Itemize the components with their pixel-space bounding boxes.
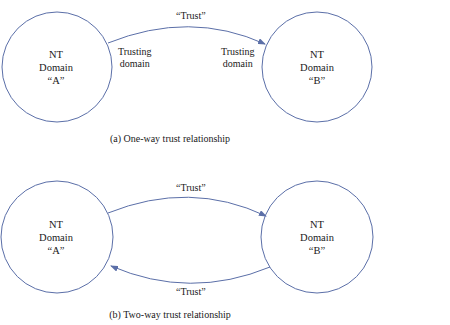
trust-arrow-a-to-b-top [108, 27, 265, 44]
caption-a: (a) One-way trust relationship [0, 133, 395, 144]
caption-b: (b) Two-way trust relationship [0, 309, 395, 320]
edge-label-trust-lower: “Trust” [176, 286, 206, 298]
node-b-label-bottom: NT Domain “B” [277, 218, 357, 257]
trust-arrow-a-to-b-bottom [108, 197, 266, 216]
edge-label-trust-top: “Trust” [176, 10, 206, 22]
node-a-label-bottom: NT Domain “A” [16, 218, 96, 257]
edge-label-trust-upper: “Trust” [176, 182, 206, 194]
node-a-label-top: NT Domain “A” [16, 48, 96, 87]
trust-arrow-b-to-a-bottom [111, 266, 270, 283]
node-b-label-top: NT Domain “B” [277, 48, 357, 87]
trusting-domain-annotation-left: Trusting domain [118, 46, 152, 70]
trusting-domain-annotation-right: Trusting domain [221, 46, 255, 70]
